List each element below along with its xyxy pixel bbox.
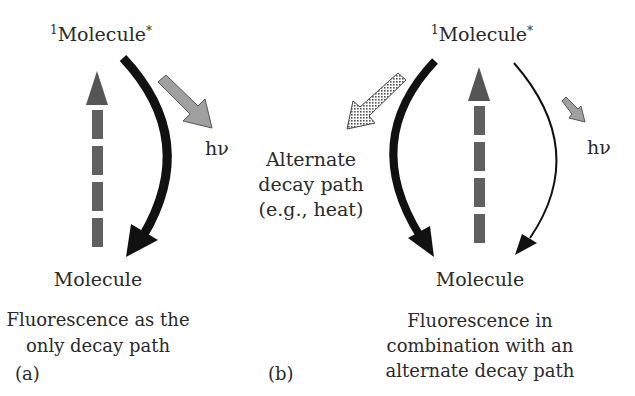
alternate-label-line-3: (e.g., heat): [259, 198, 364, 220]
alternate-decay-arrow-b: [393, 61, 435, 257]
fluorescence-decay-arrow-b: [514, 63, 556, 255]
panel-b: 1Molecule* hν Alternate decay: [258, 23, 611, 384]
alternate-label-line-2: decay path: [258, 173, 364, 195]
caption-a-line-1: Fluorescence as the: [6, 309, 189, 330]
panel-label-b: (b): [268, 363, 294, 384]
panel-a: 1Molecule* hν Molecule Fluorescence as t…: [6, 23, 228, 384]
alternate-label-line-1: Alternate: [265, 148, 356, 170]
excited-state-label-b: 1Molecule*: [431, 23, 533, 45]
excitation-arrow-a: [86, 71, 108, 247]
excitation-arrow-b: [468, 67, 490, 243]
photon-label-a: hν: [205, 137, 229, 159]
ground-state-label-a: Molecule: [54, 268, 142, 290]
photon-emission-arrow-b: [562, 97, 585, 122]
fluorescence-diagram: 1Molecule* hν Molecule Fluorescence as t…: [0, 0, 635, 396]
caption-b-line-1: Fluorescence in: [407, 310, 553, 331]
excited-state-label-a: 1Molecule*: [50, 23, 152, 45]
caption-a-line-2: only decay path: [26, 335, 170, 356]
photon-label-b: hν: [587, 136, 611, 158]
caption-b-line-3: alternate decay path: [386, 360, 575, 381]
panel-label-a: (a): [15, 363, 40, 384]
fluorescence-decay-arrow-a: [123, 58, 167, 257]
caption-b-line-2: combination with an: [387, 335, 574, 356]
ground-state-label-b: Molecule: [436, 268, 524, 290]
